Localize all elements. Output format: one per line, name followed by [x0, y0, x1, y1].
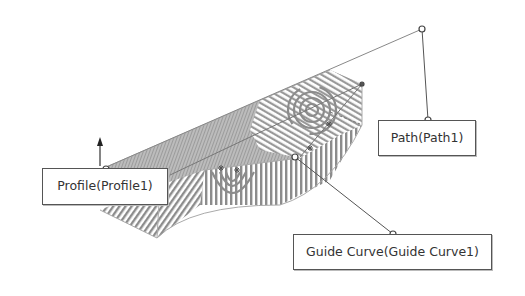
leader-line-guide — [295, 157, 393, 234]
guide-curve-callout-label: Guide Curve(Guide Curve1) — [306, 246, 479, 259]
path-endpoint-handle[interactable] — [419, 26, 425, 32]
path-callout[interactable]: Path(Path1) — [378, 120, 476, 156]
profile-callout-label: Profile(Profile1) — [57, 180, 152, 193]
profile-callout[interactable]: Profile(Profile1) — [42, 168, 168, 205]
leader-line-path — [422, 29, 428, 120]
swept-surface — [100, 70, 362, 238]
path-callout-label: Path(Path1) — [391, 132, 464, 145]
guide-curve-callout[interactable]: Guide Curve(Guide Curve1) — [293, 234, 492, 270]
up-arrow-icon — [97, 137, 103, 166]
guide-anchor-handle[interactable] — [292, 154, 298, 160]
guide-top-handle[interactable] — [360, 82, 364, 86]
